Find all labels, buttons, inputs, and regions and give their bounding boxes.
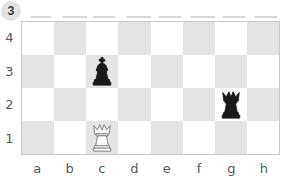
- chessboard[interactable]: [21, 21, 280, 155]
- crop-tick-6: [223, 16, 245, 18]
- square-e1[interactable]: [151, 121, 183, 154]
- square-d4[interactable]: [118, 22, 150, 55]
- rank-label-4: 4: [0, 21, 19, 55]
- square-e3[interactable]: [151, 55, 183, 88]
- square-c4[interactable]: [86, 22, 118, 55]
- square-h3[interactable]: [247, 55, 279, 88]
- square-d2[interactable]: [118, 88, 150, 121]
- crop-tick-1: [63, 16, 87, 18]
- square-a4[interactable]: [22, 22, 54, 55]
- crop-tick-5: [191, 16, 215, 18]
- square-d3[interactable]: [118, 55, 150, 88]
- square-b4[interactable]: [54, 22, 86, 55]
- square-a2[interactable]: [22, 88, 54, 121]
- file-label-g: g: [215, 157, 247, 179]
- file-labels: abcdefgh: [21, 157, 280, 179]
- rank-label-1: 1: [0, 122, 19, 156]
- square-c3[interactable]: [86, 55, 118, 88]
- square-a3[interactable]: [22, 55, 54, 88]
- file-label-d: d: [118, 157, 150, 179]
- square-a1[interactable]: [22, 121, 54, 154]
- rank-labels: 4321: [0, 21, 19, 155]
- square-b3[interactable]: [54, 55, 86, 88]
- square-g2[interactable]: [215, 88, 247, 121]
- file-label-c: c: [86, 157, 118, 179]
- crop-tick-4: [159, 16, 181, 18]
- square-h2[interactable]: [247, 88, 279, 121]
- square-f2[interactable]: [183, 88, 215, 121]
- rank-label-3: 3: [0, 55, 19, 89]
- square-f1[interactable]: [183, 121, 215, 154]
- square-g3[interactable]: [215, 55, 247, 88]
- crop-tick-2: [93, 16, 115, 18]
- square-d1[interactable]: [118, 121, 150, 154]
- square-h4[interactable]: [247, 22, 279, 55]
- square-b2[interactable]: [54, 88, 86, 121]
- square-e2[interactable]: [151, 88, 183, 121]
- exercise-number-badge: 3: [1, 1, 21, 21]
- crop-tick-7: [255, 16, 277, 18]
- file-label-a: a: [21, 157, 53, 179]
- white-queen-icon[interactable]: [89, 123, 115, 153]
- file-label-h: h: [248, 157, 280, 179]
- board-grid: [22, 22, 279, 154]
- file-label-f: f: [183, 157, 215, 179]
- square-g4[interactable]: [215, 22, 247, 55]
- black-queen-icon[interactable]: [218, 90, 244, 120]
- square-f3[interactable]: [183, 55, 215, 88]
- square-b1[interactable]: [54, 121, 86, 154]
- file-label-e: e: [151, 157, 183, 179]
- square-e4[interactable]: [151, 22, 183, 55]
- top-crop-artifacts: [21, 15, 280, 19]
- square-c2[interactable]: [86, 88, 118, 121]
- crop-tick-3: [127, 16, 151, 18]
- black-king-icon[interactable]: [89, 57, 115, 87]
- square-f4[interactable]: [183, 22, 215, 55]
- rank-label-2: 2: [0, 88, 19, 122]
- crop-tick-0: [31, 16, 51, 18]
- file-label-b: b: [53, 157, 85, 179]
- square-c1[interactable]: [86, 121, 118, 154]
- square-h1[interactable]: [247, 121, 279, 154]
- square-g1[interactable]: [215, 121, 247, 154]
